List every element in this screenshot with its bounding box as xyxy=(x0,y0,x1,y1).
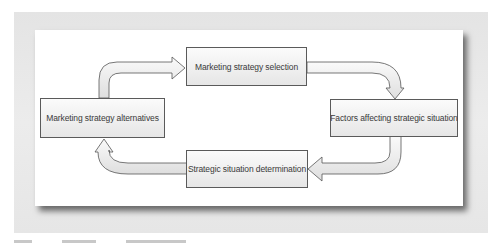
arrow-alternatives-to-selection xyxy=(99,57,185,98)
figure-caption-cutoff xyxy=(14,240,314,247)
node-marketing-strategy-alternatives: Marketing strategy alternatives xyxy=(40,98,165,138)
node-label: Factors affecting strategic situation xyxy=(330,113,458,123)
arrow-determination-to-alternatives xyxy=(95,139,187,174)
node-label: Marketing strategy selection xyxy=(195,62,298,72)
node-label: Strategic situation determination xyxy=(188,164,306,174)
node-label: Marketing strategy alternatives xyxy=(46,113,159,123)
arrow-factors-to-determination xyxy=(308,136,401,181)
arrow-selection-to-factors xyxy=(307,62,404,99)
node-strategic-situation-determination: Strategic situation determination xyxy=(186,150,308,188)
node-marketing-strategy-selection: Marketing strategy selection xyxy=(186,47,307,86)
node-factors-affecting-strategic-situation: Factors affecting strategic situation xyxy=(330,99,458,137)
